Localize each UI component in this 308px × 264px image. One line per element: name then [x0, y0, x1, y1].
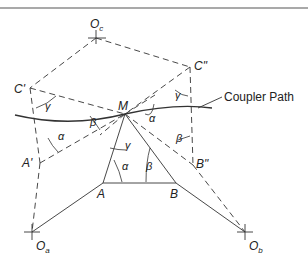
angle-gamma-center: γ	[125, 139, 132, 151]
point-ob-label: Ob	[249, 239, 263, 255]
angle-beta-left: β	[89, 116, 97, 128]
point-c-double-prime-label: C"	[194, 59, 208, 73]
four-bar-linkage-diagram: Oc C' C" M A' A B B" Oa Ob γ β α γ α β α…	[0, 0, 308, 264]
point-b-double-prime-label: B"	[196, 157, 209, 171]
point-b-label: B	[170, 187, 178, 201]
point-m-label: M	[118, 99, 128, 113]
angle-alpha-center: α	[122, 160, 129, 172]
point-a-label: A	[96, 187, 105, 201]
coupler-path-leader	[198, 97, 222, 108]
angle-beta-right: β	[175, 132, 183, 144]
coupler-path-label: Coupler Path	[224, 90, 294, 104]
angle-alpha-left: α	[58, 130, 65, 142]
point-oa-label: Oa	[36, 239, 50, 255]
angle-alpha-right: α	[149, 112, 156, 124]
angle-gamma-right: γ	[175, 89, 182, 101]
point-c-prime-label: C'	[14, 82, 26, 96]
angle-beta-center: β	[145, 160, 153, 172]
point-oc-label: Oc	[90, 17, 103, 33]
angle-gamma-left: γ	[45, 100, 52, 112]
point-a-prime-label: A'	[21, 156, 33, 170]
